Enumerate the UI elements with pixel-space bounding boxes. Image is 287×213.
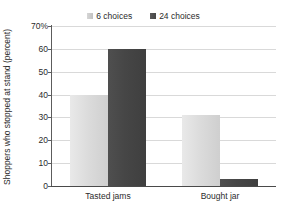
gridline [52, 26, 276, 27]
x-axis-line [51, 186, 276, 187]
bar-tasted-jams-24-choices [108, 49, 146, 186]
x-axis-tick-labels: Tasted jams Bought jar [52, 191, 276, 207]
legend-item-24-choices: 24 choices [150, 12, 200, 21]
bar-tasted-jams-6-choices [70, 95, 108, 186]
legend-label-24-choices: 24 choices [159, 12, 200, 21]
legend-item-6-choices: 6 choices [87, 12, 132, 21]
gridline [52, 49, 276, 50]
legend-swatch-icon-light [87, 13, 93, 19]
legend-swatch-icon-dark [150, 13, 156, 19]
plot-area [52, 26, 276, 186]
bar-chart: 6 choices 24 choices Shoppers who stoppe… [0, 0, 287, 213]
y-axis-tick-marks [0, 26, 52, 186]
legend-label-6-choices: 6 choices [96, 12, 132, 21]
x-tick-label-bought-jar: Bought jar [201, 191, 240, 202]
bar-bought-jar-24-choices [220, 179, 258, 186]
bar-bought-jar-6-choices [182, 115, 220, 186]
gridline [52, 72, 276, 73]
x-tick-label-tasted-jams: Tasted jams [85, 191, 130, 202]
